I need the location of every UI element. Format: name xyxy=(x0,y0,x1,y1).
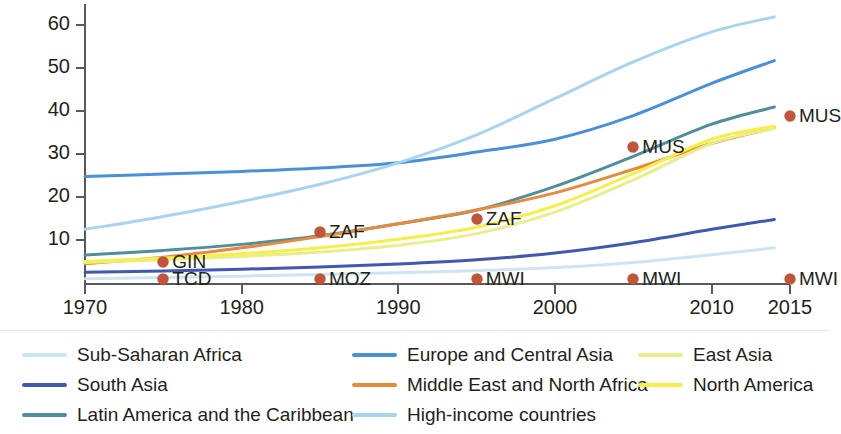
country-marker-dot-mwi xyxy=(471,273,482,284)
country-marker-dot-zaf xyxy=(471,213,482,224)
legend-column-2: Europe and Central AsiaMiddle East and N… xyxy=(352,340,642,430)
legend-item[interactable]: South Asia xyxy=(22,370,362,400)
legend-divider xyxy=(0,330,830,331)
legend-item[interactable]: Latin America and the Caribbean xyxy=(22,400,362,430)
legend-label: Europe and Central Asia xyxy=(407,344,613,366)
legend-item[interactable]: North America xyxy=(638,370,828,400)
legend-label: East Asia xyxy=(693,344,772,366)
legend-label: North America xyxy=(693,374,813,396)
country-marker-dot-mwi xyxy=(628,273,639,284)
chart-series-lines xyxy=(0,0,830,300)
country-marker-dot-mus xyxy=(785,110,796,121)
legend-swatch-icon xyxy=(352,413,397,417)
country-marker-label-zaf: ZAF xyxy=(486,208,522,230)
country-marker-label-mwi: MWI xyxy=(486,268,525,290)
legend-swatch-icon xyxy=(22,413,67,417)
legend-label: Sub-Saharan Africa xyxy=(77,344,242,366)
country-marker-label-moz: MOZ xyxy=(329,268,371,290)
country-marker-dot-zaf xyxy=(315,227,326,238)
country-marker-label-zaf: ZAF xyxy=(329,221,365,243)
country-marker-label-mus: MUS xyxy=(799,105,841,127)
country-marker-dot-moz xyxy=(315,273,326,284)
country-marker-label-mwi: MWI xyxy=(642,268,681,290)
legend-swatch-icon xyxy=(22,353,67,357)
country-marker-label-mus: MUS xyxy=(642,136,684,158)
series-line-europe-and-central-asia xyxy=(85,61,774,177)
legend-swatch-icon xyxy=(352,353,397,357)
chart-legend: Sub-Saharan AfricaSouth AsiaLatin Americ… xyxy=(0,336,830,434)
series-line-latin-america-and-the-caribbean xyxy=(85,107,774,255)
legend-label: Middle East and North Africa xyxy=(407,374,648,396)
legend-swatch-icon xyxy=(22,383,67,387)
legend-item[interactable]: Sub-Saharan Africa xyxy=(22,340,362,370)
country-marker-label-mwi: MWI xyxy=(799,268,838,290)
country-marker-dot-mwi xyxy=(785,273,796,284)
legend-swatch-icon xyxy=(352,383,397,387)
legend-label: South Asia xyxy=(77,374,168,396)
legend-column-1: Sub-Saharan AfricaSouth AsiaLatin Americ… xyxy=(22,340,362,430)
legend-label: Latin America and the Caribbean xyxy=(77,404,354,426)
legend-column-3: East AsiaNorth America xyxy=(638,340,828,400)
country-marker-dot-mus xyxy=(628,141,639,152)
legend-item[interactable]: High-income countries xyxy=(352,400,642,430)
legend-item[interactable]: Middle East and North Africa xyxy=(352,370,642,400)
legend-swatch-icon xyxy=(638,383,683,387)
legend-item[interactable]: East Asia xyxy=(638,340,828,370)
country-marker-dot-gin xyxy=(158,256,169,267)
country-marker-label-tcd: TCD xyxy=(172,268,211,290)
legend-label: High-income countries xyxy=(407,404,596,426)
country-marker-dot-tcd xyxy=(158,273,169,284)
legend-swatch-icon xyxy=(638,353,683,357)
legend-item[interactable]: Europe and Central Asia xyxy=(352,340,642,370)
series-line-high-income-countries xyxy=(85,17,774,229)
